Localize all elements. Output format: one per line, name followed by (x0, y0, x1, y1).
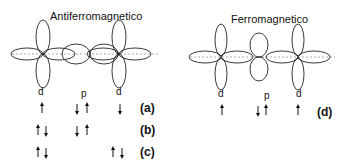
ferro-label-d-right: d (296, 88, 302, 99)
spin-arrows (38, 104, 298, 157)
ferro-label-d-left: d (218, 88, 224, 99)
label-p: p (81, 88, 87, 99)
label-d-right: d (116, 86, 122, 97)
case-a: (a) (140, 101, 155, 115)
label-d-left: d (38, 86, 44, 97)
case-c: (c) (140, 145, 155, 159)
case-d: (d) (317, 105, 332, 119)
case-b: (b) (140, 123, 155, 137)
ferro-label-p: p (264, 90, 270, 101)
ferro-title: Ferromagnetico (231, 13, 308, 25)
antiferro-title: Antiferromagnetico (50, 10, 142, 22)
